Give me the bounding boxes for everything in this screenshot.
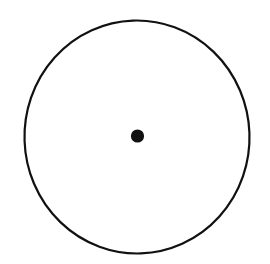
center-dot (131, 129, 144, 142)
figure-canvas: Circle with marked centre point A large … (0, 0, 270, 264)
circle-diagram: Circle with marked centre point A large … (0, 0, 270, 264)
